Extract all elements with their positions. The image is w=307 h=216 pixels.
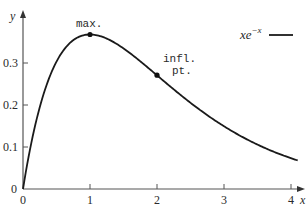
x-tick-label: 1: [87, 193, 93, 207]
x-axis-arrow-icon: [297, 186, 305, 192]
max-annotation: max.: [76, 18, 102, 30]
y-axis-label: y: [9, 9, 16, 23]
x-tick-label: 3: [221, 193, 227, 207]
y-tick-label: 0.2: [3, 98, 18, 112]
x-axis-label: x: [299, 193, 306, 207]
inflection-point: [154, 73, 159, 78]
legend-label: xe−x: [239, 25, 262, 42]
x-tick-label: 4: [288, 193, 294, 207]
max-point: [87, 32, 92, 37]
x-tick-label: 0: [20, 193, 26, 207]
y-tick-label: 0.1: [3, 140, 18, 154]
origin-label: 0: [11, 182, 17, 196]
y-ticks: [23, 63, 28, 147]
infl-annotation-line2: pt.: [172, 65, 192, 77]
y-axis-arrow-icon: [20, 10, 26, 18]
infl-annotation-line1: infl.: [163, 53, 196, 65]
x-ticks: [90, 184, 291, 189]
x-tick-label: 2: [154, 193, 160, 207]
legend: xe−x: [239, 25, 293, 42]
y-tick-label: 0.3: [3, 56, 18, 70]
chart-canvas: 0.1 0.2 0.3 0 0 1 2 3 4 y x max. infl. p…: [0, 0, 307, 216]
curve-line: [23, 34, 298, 189]
